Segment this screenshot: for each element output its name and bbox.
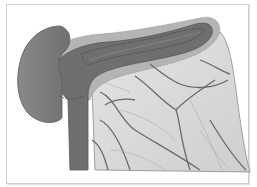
anatomy-illustration	[0, 0, 257, 187]
